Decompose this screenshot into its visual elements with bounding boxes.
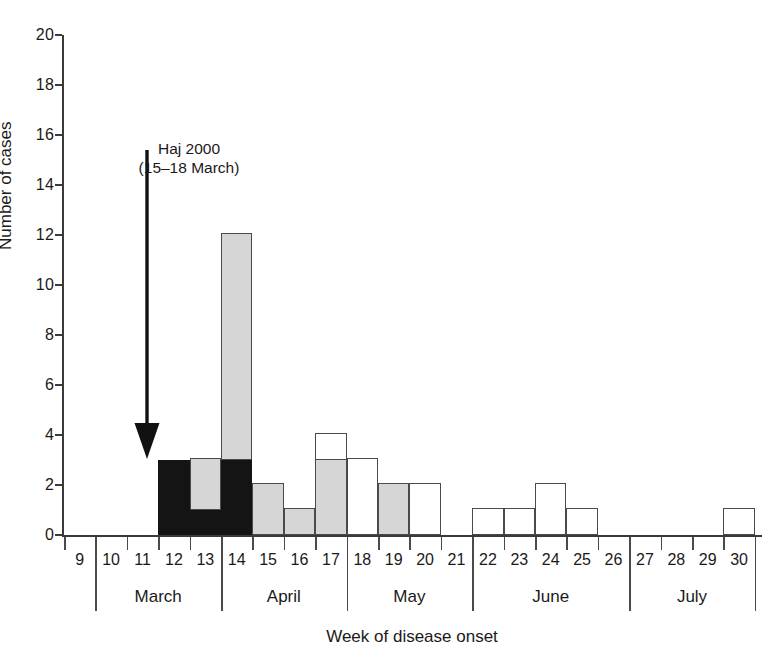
y-axis-tick-label: 18 (36, 76, 54, 94)
y-axis-tick-label: 14 (36, 176, 54, 194)
annotation-line-1: Haj 2000 (114, 139, 264, 158)
y-axis-tick-label: 16 (36, 126, 54, 144)
bar-segment (472, 508, 503, 535)
bar-segment (252, 483, 283, 535)
y-axis-tick (55, 434, 62, 436)
y-axis-tick (55, 234, 62, 236)
y-axis-tick (55, 34, 62, 36)
y-axis-title: Number of cases (0, 122, 16, 251)
epidemic-curve-chart: 02468101214161820 Number of cases 910111… (0, 0, 770, 647)
month-label: April (267, 587, 301, 607)
month-label: March (135, 587, 182, 607)
bar-segment (566, 508, 597, 535)
y-axis-tick-labels: 02468101214161820 (0, 35, 54, 537)
y-axis-tick (55, 134, 62, 136)
bar-segment (158, 460, 189, 535)
month-label: May (393, 587, 425, 607)
y-axis-tick-label: 0 (45, 526, 54, 544)
month-label: July (677, 587, 707, 607)
bar-segment (221, 460, 252, 535)
plot-area: 9101112131415161718192021222324252627282… (62, 35, 762, 537)
bar-segment (535, 483, 566, 535)
bar-segment (190, 458, 221, 510)
bar-segment (504, 508, 535, 535)
y-axis-tick-label: 20 (36, 26, 54, 44)
bar-segment (284, 508, 315, 535)
y-axis-tick (55, 484, 62, 486)
bar-segment (347, 458, 378, 535)
y-axis-tick-label: 8 (45, 326, 54, 344)
y-axis-tick-label: 2 (45, 476, 54, 494)
y-axis-tick (55, 534, 62, 536)
bar-segment (221, 233, 252, 460)
y-axis-tick-label: 12 (36, 226, 54, 244)
y-axis-tick (55, 284, 62, 286)
x-axis-title: Week of disease onset (62, 627, 762, 647)
annotation-line-2: (15–18 March) (114, 158, 264, 177)
bar-segment (723, 508, 754, 535)
bar-segment (315, 433, 346, 460)
y-axis-tick (55, 384, 62, 386)
bar-segment (378, 483, 409, 535)
y-axis-tick (55, 184, 62, 186)
y-axis-tick (55, 84, 62, 86)
y-axis-tick (55, 334, 62, 336)
bar-series-group (62, 35, 762, 535)
y-axis-tick-label: 6 (45, 376, 54, 394)
bar-segment (315, 458, 346, 535)
bar-segment (409, 483, 440, 535)
month-label: June (532, 587, 569, 607)
y-axis-tick-label: 4 (45, 426, 54, 444)
month-group-labels: MarchAprilMayJuneJuly (62, 587, 762, 613)
haj-2000-annotation: Haj 2000 (15–18 March) (114, 139, 264, 177)
y-axis-tick-label: 10 (36, 276, 54, 294)
bar-segment (190, 510, 221, 535)
cropped-figure-title (120, 0, 540, 8)
